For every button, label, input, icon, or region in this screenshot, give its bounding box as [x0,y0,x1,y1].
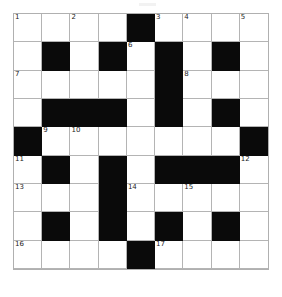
grid-cell-open[interactable] [99,127,127,155]
grid-cell-open[interactable] [70,212,98,240]
grid-cell-blocked [183,156,211,184]
grid-cell-blocked [127,241,155,269]
grid-cell-open[interactable] [99,14,127,42]
grid-cell-open[interactable] [212,241,240,269]
grid-cell-open[interactable] [183,42,211,70]
grid-cell-open[interactable] [183,127,211,155]
grid-cell-open-8[interactable] [183,71,211,99]
grid-cell-open[interactable] [212,14,240,42]
grid-cell-open[interactable] [155,184,183,212]
grid-cell-blocked [240,127,268,155]
grid-cell-open[interactable] [70,156,98,184]
grid-cell-open[interactable] [99,241,127,269]
crossword-grid[interactable] [13,13,269,270]
grid-cell-open-2[interactable] [70,14,98,42]
grid-cell-blocked [99,156,127,184]
grid-cell-open[interactable] [42,241,70,269]
grid-cell-open-13[interactable] [14,184,42,212]
grid-cell-blocked [212,212,240,240]
grid-cell-open-10[interactable] [70,127,98,155]
grid-cell-blocked [212,42,240,70]
grid-cell-blocked [99,99,127,127]
grid-cell-open-5[interactable] [240,14,268,42]
grid-cell-open[interactable] [42,71,70,99]
grid-cell-open-14[interactable] [127,184,155,212]
grid-cell-blocked [99,42,127,70]
grid-cell-open[interactable] [240,42,268,70]
grid-cell-open[interactable] [127,212,155,240]
grid-cell-open[interactable] [240,99,268,127]
grid-cell-open[interactable] [70,71,98,99]
grid-cell-open[interactable] [212,71,240,99]
grid-cell-blocked [14,127,42,155]
grid-cell-open-4[interactable] [183,14,211,42]
grid-cell-blocked [212,156,240,184]
grid-cell-blocked [99,212,127,240]
grid-cell-open-1[interactable] [14,14,42,42]
grid-cell-blocked [42,212,70,240]
grid-cell-open[interactable] [42,14,70,42]
grid-cell-blocked [42,42,70,70]
grid-cell-open[interactable] [99,71,127,99]
grid-cell-blocked [70,99,98,127]
grid-cell-open-7[interactable] [14,71,42,99]
grid-cell-blocked [155,212,183,240]
grid-cell-open-9[interactable] [42,127,70,155]
grid-cell-open[interactable] [127,156,155,184]
grid-cell-open[interactable] [212,184,240,212]
scan-artifact [139,3,156,6]
grid-cell-open-16[interactable] [14,241,42,269]
grid-cell-open[interactable] [212,127,240,155]
grid-cell-open-6[interactable] [127,42,155,70]
grid-cell-open[interactable] [14,42,42,70]
grid-cell-open[interactable] [127,127,155,155]
grid-cell-open[interactable] [127,99,155,127]
grid-cell-blocked [155,99,183,127]
grid-cell-blocked [155,42,183,70]
grid-cell-open-17[interactable] [155,241,183,269]
grid-cell-blocked [99,184,127,212]
grid-cell-open-15[interactable] [183,184,211,212]
grid-cell-open[interactable] [240,184,268,212]
grid-cell-open[interactable] [155,127,183,155]
crossword-page [0,0,282,297]
grid-cell-open[interactable] [240,241,268,269]
grid-cell-blocked [155,156,183,184]
grid-cell-open[interactable] [70,184,98,212]
grid-cell-blocked [127,14,155,42]
grid-cell-open-11[interactable] [14,156,42,184]
grid-cell-open[interactable] [183,212,211,240]
grid-cell-open-12[interactable] [240,156,268,184]
grid-cell-open[interactable] [240,212,268,240]
grid-cell-open[interactable] [42,184,70,212]
grid-cell-open[interactable] [240,71,268,99]
grid-cell-open[interactable] [127,71,155,99]
grid-cell-open[interactable] [14,212,42,240]
grid-cell-open[interactable] [183,99,211,127]
grid-cell-blocked [155,71,183,99]
grid-cell-open[interactable] [70,42,98,70]
grid-cell-open[interactable] [183,241,211,269]
grid-cell-open-3[interactable] [155,14,183,42]
grid-cell-open[interactable] [70,241,98,269]
grid-cell-blocked [42,156,70,184]
grid-cell-blocked [212,99,240,127]
grid-cell-blocked [42,99,70,127]
grid-cell-open[interactable] [14,99,42,127]
